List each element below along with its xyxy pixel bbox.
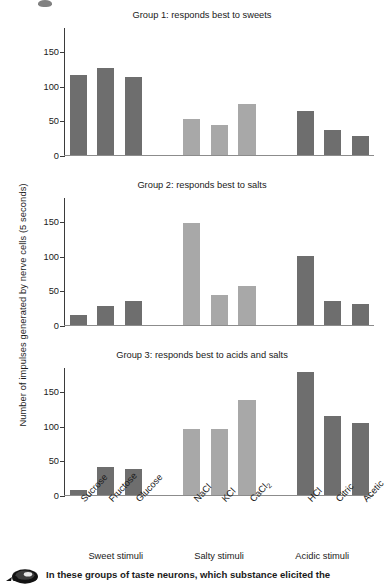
- y-tick-mark: [60, 427, 65, 428]
- plot-area: 050100150: [64, 28, 374, 156]
- bar: [183, 119, 200, 155]
- y-tick-label: 100: [29, 252, 59, 262]
- y-axis-line: [64, 198, 65, 326]
- bar: [238, 286, 255, 325]
- bar: [125, 301, 142, 325]
- bar: [238, 400, 255, 495]
- y-tick-label: 150: [29, 47, 59, 57]
- bar: [352, 423, 369, 495]
- mouse-icon: [6, 568, 40, 585]
- bar: [125, 77, 142, 155]
- y-tick-mark: [60, 392, 65, 393]
- y-tick-mark: [60, 156, 65, 157]
- caption-row: In these groups of taste neurons, which …: [0, 567, 386, 587]
- stimuli-group-labels: Sweet stimuliSalty stimuliAcidic stimuli: [64, 551, 374, 565]
- y-tick-label: 150: [29, 387, 59, 397]
- y-tick-mark: [60, 121, 65, 122]
- y-tick-label: 0: [29, 491, 59, 501]
- bar: [324, 416, 341, 495]
- y-tick-label: 0: [29, 151, 59, 161]
- chart-panel-group-2: Group 2: responds best to salts 05010015…: [0, 180, 386, 340]
- chart-panel-group-1: Group 1: responds best to sweets 0501001…: [0, 10, 386, 170]
- bar: [238, 104, 255, 155]
- y-tick-mark: [60, 291, 65, 292]
- bar: [324, 301, 341, 325]
- bar: [183, 223, 200, 325]
- chart-panel-group-3: Group 3: responds best to acids and salt…: [0, 350, 386, 510]
- y-tick-label: 100: [29, 422, 59, 432]
- bar: [97, 68, 114, 155]
- pencil-tip-mark-icon: [38, 0, 52, 7]
- y-tick-label: 100: [29, 82, 59, 92]
- y-tick-mark: [60, 326, 65, 327]
- stimuli-group-label: Sweet stimuli: [88, 551, 143, 561]
- panel-title: Group 2: responds best to salts: [0, 180, 386, 190]
- y-tick-label: 50: [29, 456, 59, 466]
- y-tick-mark: [60, 52, 65, 53]
- bar: [297, 372, 314, 495]
- plot-area: 050100150: [64, 368, 374, 496]
- y-tick-label: 150: [29, 217, 59, 227]
- y-tick-label: 50: [29, 286, 59, 296]
- x-axis-line: [64, 325, 374, 326]
- bar: [211, 295, 228, 325]
- y-tick-mark: [60, 222, 65, 223]
- bar: [211, 429, 228, 495]
- bar: [324, 130, 341, 155]
- y-tick-mark: [60, 257, 65, 258]
- bar: [97, 306, 114, 325]
- y-tick-mark: [60, 87, 65, 88]
- stimuli-group-label: Salty stimuli: [194, 551, 244, 561]
- bar: [297, 256, 314, 325]
- y-axis-line: [64, 368, 65, 496]
- y-tick-label: 50: [29, 116, 59, 126]
- x-axis-category-labels: SucroseFructoseGlucoseNaClKClCaCl2HClCit…: [64, 497, 374, 545]
- bar: [352, 136, 369, 155]
- y-tick-label: 0: [29, 321, 59, 331]
- caption-text: In these groups of taste neurons, which …: [46, 569, 382, 581]
- panel-title: Group 3: responds best to acids and salt…: [0, 350, 386, 360]
- plot-area: 050100150: [64, 198, 374, 326]
- y-axis-line: [64, 28, 65, 156]
- stimuli-group-label: Acidic stimuli: [295, 551, 349, 561]
- x-axis-line: [64, 155, 374, 156]
- bar: [70, 315, 87, 325]
- y-tick-mark: [60, 461, 65, 462]
- panel-title: Group 1: responds best to sweets: [0, 10, 386, 20]
- bar: [70, 75, 87, 155]
- bar: [297, 111, 314, 155]
- bar: [211, 125, 228, 155]
- bar: [352, 304, 369, 325]
- bar: [183, 429, 200, 495]
